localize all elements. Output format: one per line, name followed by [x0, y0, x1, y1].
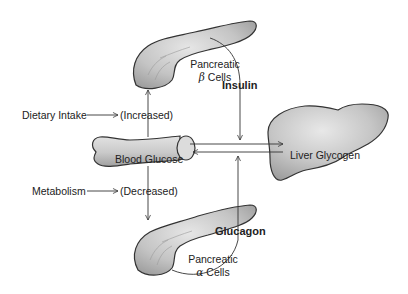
- blood-glucose-label: Blood Glucose: [115, 154, 183, 165]
- beta-symbol: β: [199, 71, 205, 83]
- alpha-symbol: α: [196, 266, 203, 278]
- alpha-cells-line1: Pancreatic: [173, 254, 253, 265]
- alpha-cells-word: Cells: [206, 266, 229, 278]
- dietary-intake-label: Dietary Intake: [22, 110, 87, 121]
- glucose-regulation-diagram: Pancreatic β Cells Insulin Dietary Intak…: [0, 0, 408, 294]
- glucagon-label: Glucagon: [215, 226, 266, 237]
- diagram-graphics: [0, 0, 408, 294]
- alpha-cells-line2: α Cells: [173, 267, 253, 278]
- insulin-label: Insulin: [222, 80, 257, 91]
- liver-shape: [268, 104, 388, 180]
- liver-glycogen-label: Liver Glycogen: [290, 150, 360, 161]
- decreased-label: (Decreased): [120, 186, 178, 197]
- alpha-cells-label: Pancreatic α Cells: [173, 254, 253, 277]
- increased-label: (Increased): [120, 110, 173, 121]
- metabolism-label: Metabolism: [32, 186, 86, 197]
- beta-cells-line1: Pancreatic: [175, 59, 255, 70]
